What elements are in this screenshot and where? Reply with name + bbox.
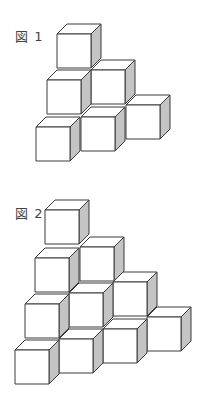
cube — [103, 319, 147, 363]
cube — [15, 340, 59, 384]
cube-front-face — [57, 34, 91, 68]
cube-front-face — [25, 304, 59, 338]
cube-diagram — [0, 0, 203, 409]
cube-front-face — [103, 329, 137, 363]
cube-front-face — [35, 258, 69, 292]
cube-front-face — [91, 70, 125, 104]
cube — [47, 70, 91, 114]
figure-1-cubes — [36, 24, 170, 161]
cube — [126, 95, 170, 139]
cube-front-face — [59, 339, 93, 373]
cube-front-face — [126, 105, 160, 139]
cube-front-face — [15, 350, 49, 384]
cube — [36, 117, 80, 161]
cube — [113, 272, 157, 316]
cube-front-face — [45, 210, 79, 244]
cube — [45, 200, 89, 244]
cube-front-face — [147, 317, 181, 351]
cube — [81, 107, 125, 151]
figure-2-cubes — [15, 200, 191, 384]
cube-front-face — [47, 80, 81, 114]
cube-front-face — [81, 117, 115, 151]
cube — [59, 329, 103, 373]
cube — [35, 248, 79, 292]
cube — [25, 294, 69, 338]
cube-front-face — [69, 293, 103, 327]
cube-front-face — [36, 127, 70, 161]
cube-front-face — [80, 247, 114, 281]
cube — [147, 307, 191, 351]
cube — [69, 283, 113, 327]
cube — [57, 24, 101, 68]
cube — [80, 237, 124, 281]
cube-front-face — [113, 282, 147, 316]
cube — [91, 60, 135, 104]
